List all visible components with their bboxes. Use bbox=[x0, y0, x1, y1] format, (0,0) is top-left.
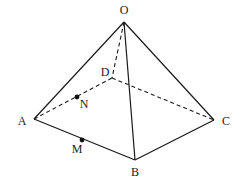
edge-DC bbox=[112, 78, 214, 120]
edge-OB bbox=[124, 22, 135, 160]
vertex-label-O: O bbox=[120, 3, 129, 17]
edge-OC bbox=[124, 22, 214, 120]
edge-OD bbox=[112, 22, 124, 78]
edge-AD bbox=[34, 78, 112, 119]
edge-BC bbox=[135, 120, 214, 160]
edge-AB bbox=[34, 119, 135, 160]
pyramid-diagram: O A B C D N M bbox=[0, 0, 242, 189]
vertex-label-B: B bbox=[131, 165, 139, 179]
vertex-label-A: A bbox=[18, 114, 27, 128]
vertex-label-D: D bbox=[101, 65, 110, 79]
point-label-N: N bbox=[80, 97, 89, 111]
vertex-label-C: C bbox=[222, 114, 230, 128]
point-label-M: M bbox=[72, 142, 83, 156]
